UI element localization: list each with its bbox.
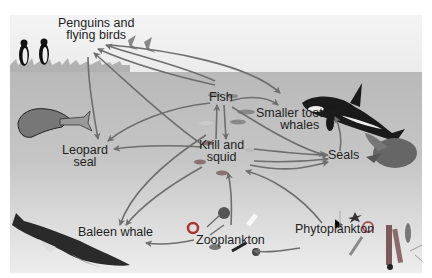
node-label-line: flying birds (58, 29, 134, 41)
leopard-seal-icon (18, 109, 92, 138)
node-zooplankton: Zooplankton (196, 234, 265, 246)
node-label-line: squid (199, 151, 244, 163)
node-leopard-seal: Leopard seal (62, 144, 108, 168)
node-label-line: Fish (209, 91, 233, 103)
node-label-line: Phytoplankton (295, 223, 374, 235)
node-krill-and-squid: Krill and squid (199, 139, 244, 163)
node-label-line: seal (62, 156, 108, 168)
zooplankton-icon (188, 207, 260, 256)
penguin-icon (19, 39, 49, 67)
node-label-line: Zooplankton (196, 234, 265, 246)
phytoplankton-icon (335, 211, 422, 270)
node-label-line: Seals (328, 149, 359, 161)
node-label-line: whales (256, 119, 344, 131)
food-web-diagram: Penguins and flying birds Fish Smaller t… (10, 15, 422, 273)
node-phytoplankton: Phytoplankton (295, 223, 374, 235)
node-seals: Seals (328, 149, 359, 161)
node-baleen-whale: Baleen whale (78, 226, 153, 238)
node-fish: Fish (209, 91, 233, 103)
node-label-line: Baleen whale (78, 226, 153, 238)
baleen-whale-icon (12, 213, 130, 267)
node-penguins-and-flying-birds: Penguins and flying birds (58, 17, 134, 41)
node-smaller-toothed-whales: Smaller toothed whales (256, 107, 344, 131)
